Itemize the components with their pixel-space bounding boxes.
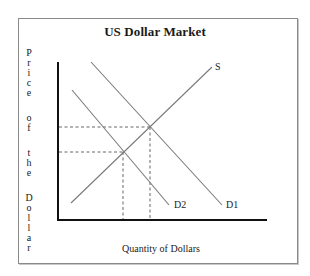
- x-axis-label: Quantity of Dollars: [0, 243, 310, 254]
- curve-label-d2: D2: [174, 199, 186, 210]
- curve-s: [71, 67, 212, 203]
- curve-d1: [91, 62, 222, 205]
- curve-label-s: S: [215, 61, 221, 72]
- supply-demand-plot: [0, 0, 310, 276]
- curve-label-d1: D1: [226, 199, 238, 210]
